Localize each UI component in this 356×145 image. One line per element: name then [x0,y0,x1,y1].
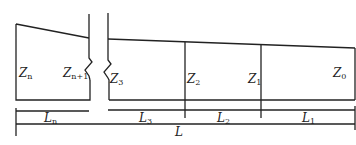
label-z3: Z3 [110,73,123,87]
label-l3: L3 [139,112,152,126]
label-ln: Ln [44,112,57,126]
top-slope-line [108,39,355,48]
label-l2: L2 [217,112,230,126]
left-block-outline [16,24,90,100]
label-zn: Zn [19,67,33,81]
label-z0: Z0 [333,67,346,81]
label-z1: Z1 [248,73,261,87]
label-l1: L1 [302,112,315,126]
label-zn1: Zn+1 [63,67,88,81]
label-z2: Z2 [187,73,200,87]
label-total-l: L [175,126,183,138]
